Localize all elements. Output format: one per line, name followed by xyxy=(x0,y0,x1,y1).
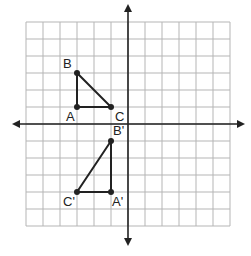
vertex-label: A xyxy=(66,109,75,124)
coordinate-plane: ABCA'B'C' xyxy=(0,0,251,256)
vertex-label: B' xyxy=(113,123,124,138)
axes xyxy=(14,6,243,244)
vertex-label: A' xyxy=(112,194,123,209)
vertex-label: C xyxy=(115,109,124,124)
vertex-label: C' xyxy=(63,194,75,209)
vertex-point xyxy=(74,189,80,195)
vertex-label: B xyxy=(63,56,72,71)
vertex-point xyxy=(108,104,114,110)
vertex-point xyxy=(108,138,114,144)
vertex-point xyxy=(74,70,80,76)
vertex-point xyxy=(74,104,80,110)
